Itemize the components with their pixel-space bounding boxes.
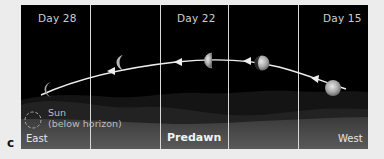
west-label: West — [338, 133, 363, 144]
arrow-icon — [174, 58, 182, 66]
predawn-label: Predawn — [167, 131, 221, 144]
third-quarter-moon-icon — [205, 53, 213, 68]
sun-icon — [25, 112, 41, 128]
figure-label: c — [7, 136, 14, 150]
sky-panel: Day 28 Day 22 Day 15 Sun (below horizon — [21, 5, 368, 149]
thin-crescent-moon-icon — [45, 82, 53, 97]
arrow-icon — [243, 57, 251, 65]
moon-path-arc — [41, 60, 346, 95]
waning-gibbous-moon-icon — [255, 56, 270, 71]
full-moon-icon — [325, 80, 341, 96]
east-label: East — [26, 133, 48, 144]
waning-crescent-moon-icon — [117, 55, 125, 70]
sun-label-line2: (below horizon) — [48, 118, 122, 129]
sun-label-line1: Sun — [48, 107, 122, 118]
arrow-icon — [311, 75, 319, 83]
sun-label: Sun (below horizon) — [48, 107, 122, 129]
